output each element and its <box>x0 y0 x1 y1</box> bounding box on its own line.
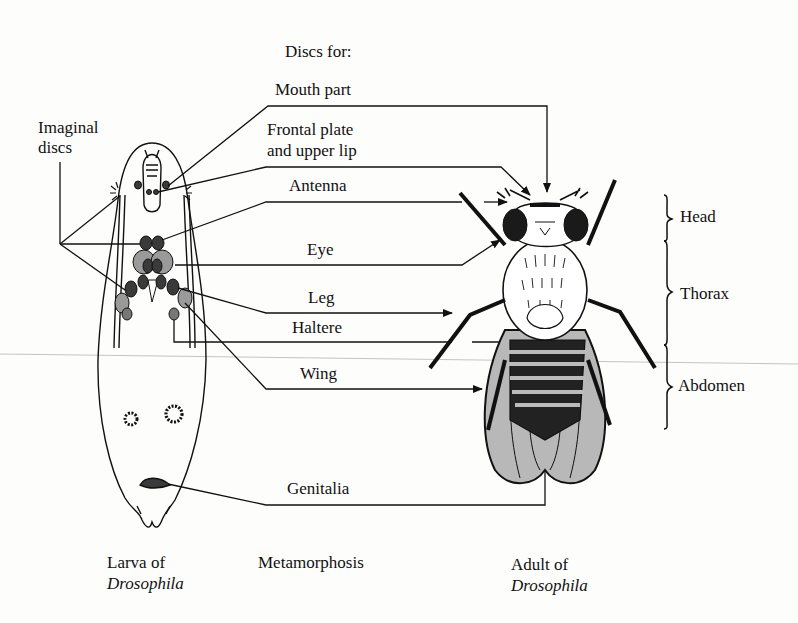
caption-larva-line2: Drosophila <box>107 574 184 594</box>
label-wing: Wing <box>300 364 337 384</box>
label-antenna: Antenna <box>289 176 347 196</box>
label-leg: Leg <box>308 288 334 308</box>
region-thorax: Thorax <box>680 284 729 304</box>
caption-metamorphosis: Metamorphosis <box>258 553 364 573</box>
drosophila-imaginal-disc-diagram: Discs for: Imaginal discs Mouth part Fro… <box>0 0 798 623</box>
region-abdomen: Abdomen <box>678 376 745 396</box>
leader-lines <box>60 106 547 505</box>
label-frontal-plate-line2: and upper lip <box>267 141 357 161</box>
imaginal-discs-label-line2: discs <box>38 138 72 158</box>
larva-imaginal-discs <box>115 181 192 320</box>
label-eye: Eye <box>307 240 333 260</box>
imaginal-discs-label-line1: Imaginal <box>38 118 98 138</box>
caption-adult-line2: Drosophila <box>511 576 588 596</box>
caption-larva-line1: Larva of <box>107 553 165 573</box>
label-frontal-plate-line1: Frontal plate <box>267 120 353 140</box>
scan-artifact-line <box>0 354 798 364</box>
body-region-braces <box>664 195 672 429</box>
discs-for-header: Discs for: <box>285 42 352 62</box>
caption-adult-line1: Adult of <box>511 555 568 575</box>
diagram-artwork <box>0 0 798 623</box>
label-mouth-part: Mouth part <box>275 80 351 100</box>
label-genitalia: Genitalia <box>287 479 349 499</box>
label-haltere: Haltere <box>292 318 342 338</box>
adult-fly-illustration <box>430 180 655 483</box>
region-head: Head <box>680 207 716 227</box>
